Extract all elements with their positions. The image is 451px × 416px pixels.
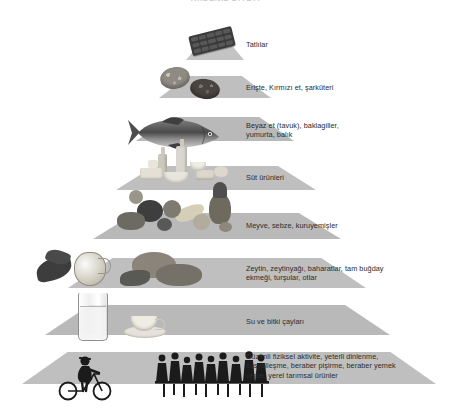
pineapple-icon <box>209 194 231 224</box>
tea-cup-handle-icon <box>155 319 165 330</box>
food-fruit-vegetable-group <box>113 184 243 242</box>
pyramid-label-water: Su ve bitki çayları <box>246 317 304 326</box>
cyclist-silhouette <box>56 350 118 402</box>
food-chocolate-bar <box>190 31 234 51</box>
olive-oil-jug-handle-icon <box>98 258 111 274</box>
tomato-icon <box>157 218 172 231</box>
water-fill <box>80 306 106 339</box>
yogurt-bowl-icon <box>164 172 188 184</box>
herbs-icon <box>120 270 150 286</box>
pyramid-label-fruit-veg: Meyve, sebze, kuruyemişler <box>246 221 338 230</box>
butter-icon <box>148 160 158 168</box>
pyramid-label-olive-oil: Zeytin, zeytinyağı, baharatlar, tam buğd… <box>246 264 384 283</box>
tea-cup-group <box>122 313 168 339</box>
pineapple-leaf-icon <box>213 182 227 198</box>
lettuce-icon <box>117 212 145 230</box>
pyramid-label-white-meat: Beyaz et (tavuk), baklagiller, yumurta, … <box>246 121 339 140</box>
apple-icon <box>163 200 181 218</box>
pepper-icon <box>129 190 143 204</box>
cheese-icon <box>140 168 162 180</box>
cyclist-icon <box>56 350 118 402</box>
pyramid-diagram: AKDENİZ DİYETİ Tatlılar Erişte, Kırmızı … <box>0 0 451 416</box>
orange-icon <box>193 214 210 230</box>
food-olive-group <box>36 248 221 296</box>
cheese-icon <box>196 170 214 180</box>
pyramid-label-lifestyle: Düzenli fiziksel aktivite, yeterli dinle… <box>246 352 396 380</box>
page-title: AKDENİZ DİYETİ <box>0 0 451 3</box>
pyramid-label-dairy: Süt ürünleri <box>246 173 284 182</box>
nuts-icon <box>219 222 232 232</box>
pyramid-label-pasta-red-meat: Erişte, Kırmızı et, şarküteri <box>246 83 333 92</box>
whole-wheat-bread-icon <box>156 264 202 286</box>
egg-icon <box>214 166 228 177</box>
water-glass-icon <box>78 293 108 341</box>
pyramid-label-sweets: Tatlılar <box>246 40 268 49</box>
